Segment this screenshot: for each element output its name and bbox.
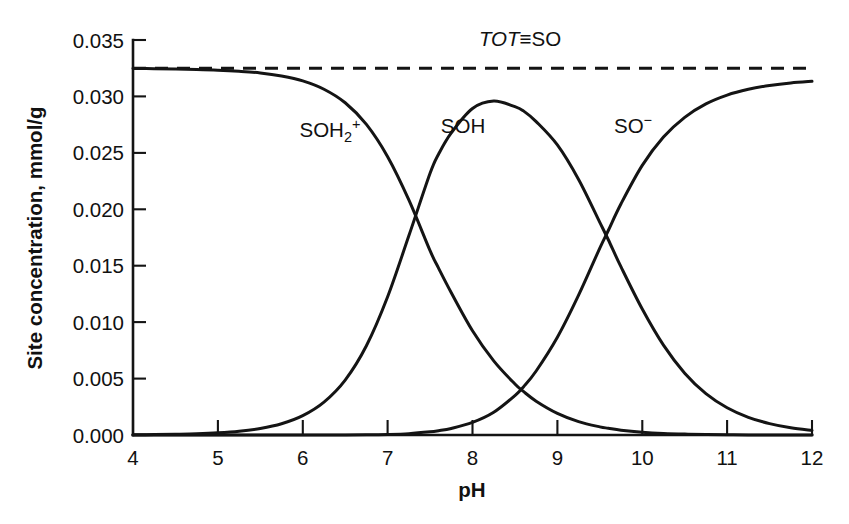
x-tick-label: 11	[716, 446, 737, 469]
y-axis-ticks	[133, 40, 146, 435]
y-tick-label: 0.030	[73, 85, 124, 108]
y-tick-label: 0.005	[73, 367, 124, 390]
label-so-minus: SO−	[614, 112, 652, 137]
label-so-base: SO	[614, 114, 644, 137]
x-tick-label: 10	[631, 446, 654, 469]
x-axis-tick-labels: 4 5 6 7 8 9 10 11 12	[127, 446, 823, 469]
label-soh2-plus: SOH2+	[300, 116, 361, 145]
chart-canvas: 0.000 0.005 0.010 0.015 0.020 0.025 0.03…	[0, 0, 849, 524]
y-tick-label: 0.020	[73, 198, 124, 221]
speciation-chart-figure: 0.000 0.005 0.010 0.015 0.020 0.025 0.03…	[0, 0, 849, 524]
x-tick-label: 9	[552, 446, 563, 469]
y-tick-label: 0.035	[73, 29, 124, 52]
x-tick-label: 8	[467, 446, 478, 469]
y-tick-label: 0.015	[73, 254, 124, 277]
label-soh-base: SOH	[441, 114, 485, 137]
label-soh2-sup: +	[352, 116, 360, 132]
label-soh2-base: SOH	[300, 118, 344, 141]
label-tot-italic: TOT	[479, 27, 521, 50]
x-tick-label: 7	[382, 446, 393, 469]
y-axis-title: Site concentration, mmol/g	[23, 106, 46, 369]
label-tot-rest: ≡SO	[520, 27, 562, 50]
x-tick-label: 12	[801, 446, 824, 469]
curve-soh	[133, 101, 812, 435]
x-tick-label: 5	[212, 446, 223, 469]
x-tick-label: 6	[297, 446, 308, 469]
y-axis-tick-labels: 0.000 0.005 0.010 0.015 0.020 0.025 0.03…	[73, 29, 124, 447]
x-tick-label: 4	[127, 446, 138, 469]
y-tick-label: 0.010	[73, 311, 124, 334]
label-so-sup: −	[644, 112, 652, 128]
label-soh2-sub: 2	[344, 129, 352, 145]
y-tick-label: 0.025	[73, 141, 124, 164]
label-soh: SOH	[441, 114, 485, 137]
y-tick-label: 0.000	[73, 424, 124, 447]
x-axis-title: pH	[458, 478, 485, 501]
label-tot-so: TOT≡SO	[479, 27, 561, 50]
